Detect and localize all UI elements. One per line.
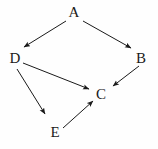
node-e: E	[45, 125, 65, 140]
graph-diagram: A D B C E	[0, 0, 158, 149]
edge-d-to-e	[17, 69, 45, 114]
edge-e-to-c	[63, 101, 93, 128]
edge-a-to-b	[83, 21, 131, 48]
node-b: B	[131, 51, 151, 66]
graph-edges-canvas	[0, 0, 158, 149]
node-a: A	[64, 5, 84, 20]
edge-b-to-c	[113, 66, 139, 86]
node-d: D	[5, 51, 25, 66]
edge-d-to-c	[23, 63, 89, 89]
node-c: C	[91, 87, 111, 102]
edge-a-to-d	[24, 21, 66, 47]
